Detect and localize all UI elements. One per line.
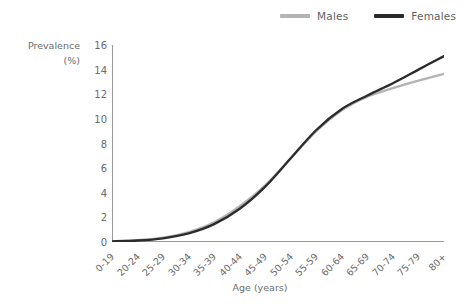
y-axis-title-line1: Prevalence bbox=[28, 40, 80, 51]
x-axis-title-text: Age (years) bbox=[185, 282, 288, 293]
legend-label-males: Males bbox=[317, 10, 348, 22]
axis-lines bbox=[112, 45, 444, 242]
y-tick-label: 14 bbox=[94, 64, 107, 75]
y-tick-label: 8 bbox=[101, 138, 107, 149]
series-line-males bbox=[112, 74, 444, 241]
y-tick-label: 2 bbox=[101, 212, 107, 223]
y-tick-label: 12 bbox=[94, 89, 107, 100]
y-tick-label: 4 bbox=[101, 187, 107, 198]
data-series-group bbox=[112, 56, 444, 241]
y-tick-label: 0 bbox=[101, 237, 107, 248]
y-axis-title-unit: (%) bbox=[18, 53, 80, 68]
chart-legend: Males Females bbox=[280, 8, 456, 24]
legend-swatch-females-icon bbox=[374, 14, 404, 18]
plot-area: 0246810121416 bbox=[112, 45, 444, 242]
legend-item-females[interactable]: Females bbox=[374, 10, 456, 22]
y-tick-label: 10 bbox=[94, 113, 107, 124]
y-tick-label: 6 bbox=[101, 163, 107, 174]
legend-item-males[interactable]: Males bbox=[280, 10, 348, 22]
legend-label-females: Females bbox=[411, 10, 456, 22]
prevalence-by-age-line-chart: Males Females Prevalence (%) 02468101214… bbox=[0, 0, 472, 304]
legend-swatch-males-icon bbox=[280, 14, 310, 18]
y-tick-label: 16 bbox=[94, 40, 107, 51]
x-axis-title: Age (years) bbox=[0, 282, 472, 293]
plot-svg bbox=[112, 45, 444, 242]
series-line-females bbox=[112, 56, 444, 241]
y-axis-title: Prevalence (%) bbox=[18, 38, 80, 68]
